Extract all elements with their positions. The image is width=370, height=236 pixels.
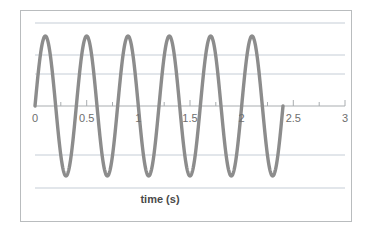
x-tick-label: 1 <box>135 112 141 124</box>
x-tick-label: 2.5 <box>286 112 301 124</box>
x-tick-label: 3 <box>342 112 348 124</box>
x-tick-label: 1.5 <box>182 112 197 124</box>
x-axis <box>35 100 345 106</box>
x-axis-ticks <box>35 100 345 106</box>
x-tick-label: 0 <box>32 112 38 124</box>
x-axis-title: time (s) <box>35 193 285 205</box>
x-tick-label: 0.5 <box>79 112 94 124</box>
x-tick-label: 2 <box>239 112 245 124</box>
